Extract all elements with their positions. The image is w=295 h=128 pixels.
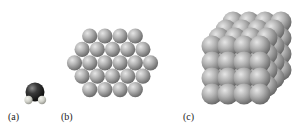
panel-a-molecule [24,83,46,105]
sphere [135,69,150,84]
sphere [128,28,143,43]
panel-a-label: (a) [8,111,19,122]
sphere [67,55,82,70]
panel-c-cubic-cluster [202,12,292,105]
hydrogen-atom-left [24,96,32,104]
sphere [97,55,112,70]
sphere [250,84,271,105]
sphere [113,28,128,43]
sphere [82,55,97,70]
sphere [90,42,105,57]
sphere [113,55,128,70]
sphere [128,55,143,70]
sphere [82,28,97,43]
sphere [97,28,112,43]
sphere [97,82,112,97]
sphere [143,55,158,70]
sphere [113,82,128,97]
sphere [105,42,120,57]
panel-b-label: (b) [61,111,73,122]
panel-b-hex-layer [67,28,158,97]
sphere [75,42,90,57]
sphere [105,69,120,84]
figure-canvas [0,0,295,128]
sphere [82,82,97,97]
sphere [128,82,143,97]
sphere [135,42,150,57]
sphere [120,69,135,84]
sphere [90,69,105,84]
hydrogen-atom-right [38,96,46,104]
panel-c-label: (c) [183,111,194,122]
sphere [75,69,90,84]
sphere [120,42,135,57]
